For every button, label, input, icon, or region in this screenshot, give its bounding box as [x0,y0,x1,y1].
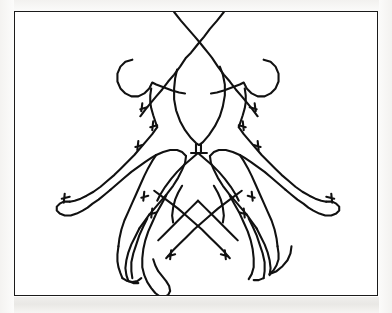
left-elbow-barb [141,192,148,201]
mirror-symmetric-figure-outline [15,12,377,295]
left-leg-outer [117,246,122,278]
crossing-line-right-to-left [140,12,224,116]
scan-artifact-left [0,0,14,313]
right-elbow-barb [248,192,255,201]
caption-area [0,299,392,313]
left-arm-upper-contour [70,127,158,201]
center-crossing-left [154,191,230,259]
right-foot-join [254,278,264,280]
scan-artifact-top [0,0,392,11]
central-head-outline [174,67,225,145]
left-shoulder-to-body [156,150,186,156]
right-shoulder-to-body [210,150,240,156]
left-inner-leg [142,196,170,295]
illustration-border [14,11,378,296]
figure-stroke-group [57,12,339,295]
scan-artifact-right [379,0,392,313]
center-crossing-right [166,191,242,259]
scanned-page [0,0,392,313]
right-arm-upper-contour [239,127,327,201]
